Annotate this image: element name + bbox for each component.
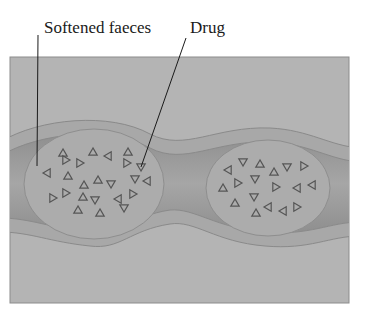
softened-faeces-label: Softened faeces [44, 18, 151, 37]
right-faeces-mass [206, 140, 330, 236]
drug-label: Drug [190, 18, 225, 37]
faeces-softener-diagram: Softened faeces Drug [0, 0, 365, 314]
left-faeces-mass [24, 129, 164, 239]
